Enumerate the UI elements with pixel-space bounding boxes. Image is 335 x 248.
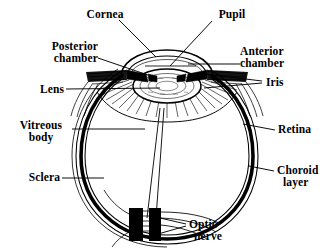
label-posterior-chamber-line1: Posterior (14, 40, 98, 53)
label-lens: Lens (16, 83, 64, 96)
label-optic-nerve-line1: Optic (189, 218, 241, 231)
label-cornea: Cornea (74, 8, 136, 21)
leader-pupil (170, 21, 212, 66)
label-choroid-layer-line1: Choroid (277, 164, 335, 177)
eye-anatomy-diagram: Cornea Pupil Posterior chamber Anterior … (0, 0, 335, 248)
label-anterior-chamber-line1: Anterior (240, 45, 320, 58)
label-choroid-layer-line2: layer (283, 176, 335, 189)
label-retina: Retina (278, 123, 332, 136)
leader-cornea (119, 20, 156, 57)
label-vitreous-body-line2: body (10, 131, 72, 144)
label-sclera: Sclera (6, 171, 60, 184)
label-anterior-chamber-line2: chamber (240, 57, 320, 70)
label-optic-nerve-line2: nerve (194, 230, 246, 243)
label-posterior-chamber-line2: chamber (14, 52, 98, 65)
label-pupil: Pupil (206, 8, 258, 21)
label-vitreous-body-line1: Vitreous (10, 119, 72, 132)
label-iris: Iris (266, 76, 310, 89)
